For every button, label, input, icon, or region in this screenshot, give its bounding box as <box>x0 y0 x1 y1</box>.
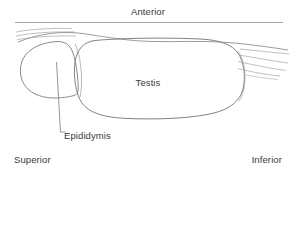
diagram-background <box>0 0 296 225</box>
anatomy-diagram-canvas: Anterior Testis Epididymis Superior Infe… <box>0 0 296 225</box>
structure-label-testis: Testis <box>0 78 296 88</box>
structure-label-epididymis: Epididymis <box>64 131 111 141</box>
anatomy-line-art <box>0 0 296 225</box>
orientation-label-anterior: Anterior <box>0 7 296 17</box>
orientation-label-inferior: Inferior <box>252 155 282 165</box>
orientation-label-superior: Superior <box>14 155 51 165</box>
